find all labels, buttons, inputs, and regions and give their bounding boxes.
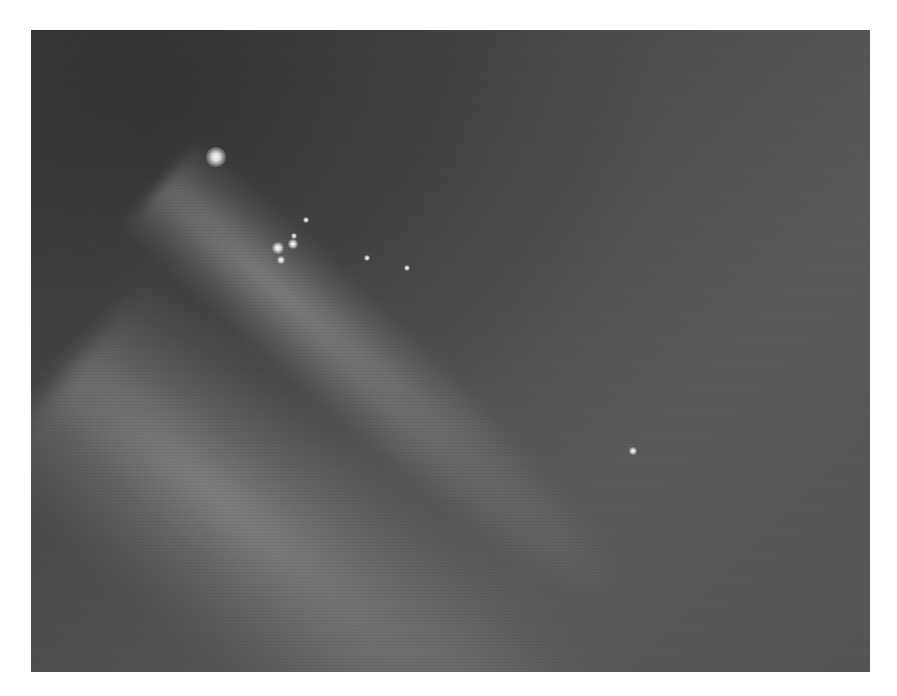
- comet-photograph: [31, 30, 870, 672]
- scan-line-texture: [31, 30, 870, 672]
